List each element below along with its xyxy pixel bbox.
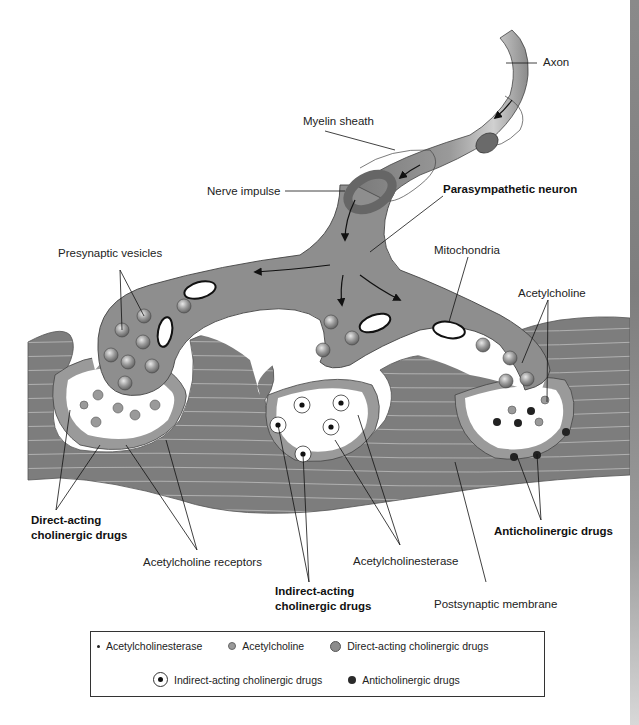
legend-item-acetylcholinesterase: Acetylcholinesterase bbox=[97, 640, 202, 652]
label-indirect-acting-2: cholinergic drugs bbox=[275, 600, 372, 612]
legend-item-acetylcholine: Acetylcholine bbox=[228, 640, 304, 652]
legend-row-2: Indirect-acting cholinergic drugs Antich… bbox=[153, 672, 486, 687]
legend-row-1: Acetylcholinesterase Acetylcholine Direc… bbox=[97, 640, 514, 652]
legend-label: Direct-acting cholinergic drugs bbox=[347, 640, 488, 652]
label-postsynaptic-membrane: Postsynaptic membrane bbox=[434, 598, 557, 610]
label-acetylcholinesterase: Acetylcholinesterase bbox=[353, 555, 458, 567]
legend-label: Anticholinergic drugs bbox=[362, 674, 459, 686]
label-parasympathetic-neuron: Parasympathetic neuron bbox=[443, 183, 577, 195]
legend-item-indirect-acting: Indirect-acting cholinergic drugs bbox=[153, 672, 322, 687]
label-indirect-acting-1: Indirect-acting bbox=[275, 585, 354, 597]
legend-item-anticholinergic: Anticholinergic drugs bbox=[348, 674, 459, 686]
ringed-dot-icon bbox=[153, 672, 168, 687]
label-myelin-sheath: Myelin sheath bbox=[303, 115, 374, 127]
label-direct-acting-1: Direct-acting bbox=[31, 514, 101, 526]
label-mitochondria: Mitochondria bbox=[434, 244, 500, 256]
legend-label: Indirect-acting cholinergic drugs bbox=[174, 674, 322, 686]
label-direct-acting-2: cholinergic drugs bbox=[31, 529, 128, 541]
page-edge-shadow bbox=[630, 0, 639, 725]
label-presynaptic-vesicles: Presynaptic vesicles bbox=[58, 247, 162, 259]
legend-label: Acetylcholine bbox=[242, 640, 304, 652]
synapse-diagram: Axon Myelin sheath Nerve impulse Parasym… bbox=[0, 0, 639, 725]
small-dot-icon bbox=[97, 645, 100, 648]
legend: Acetylcholinesterase Acetylcholine Direc… bbox=[90, 631, 545, 697]
legend-item-direct-acting: Direct-acting cholinergic drugs bbox=[330, 640, 488, 652]
label-anticholinergic-drugs: Anticholinergic drugs bbox=[494, 525, 613, 537]
diagram-canvas: Axon Myelin sheath Nerve impulse Parasym… bbox=[0, 0, 639, 725]
black-dot-icon bbox=[348, 676, 356, 684]
legend-label: Acetylcholinesterase bbox=[106, 640, 202, 652]
gray-circle-large-icon bbox=[330, 641, 341, 652]
label-axon: Axon bbox=[543, 56, 569, 68]
label-acetylcholine-receptors: Acetylcholine receptors bbox=[143, 556, 262, 568]
gray-circle-small-icon bbox=[228, 642, 236, 650]
label-acetylcholine: Acetylcholine bbox=[518, 287, 586, 299]
label-nerve-impulse: Nerve impulse bbox=[207, 185, 281, 197]
